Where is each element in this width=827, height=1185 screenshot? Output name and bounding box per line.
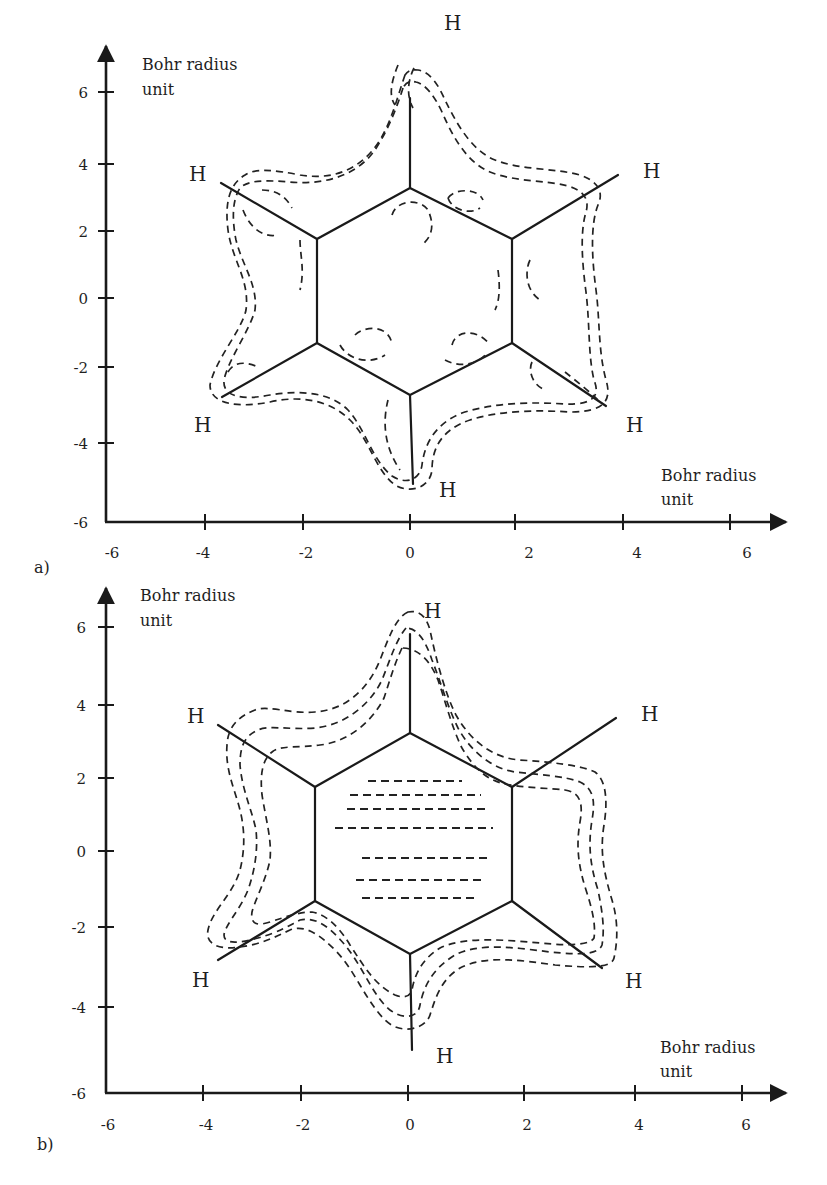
panel-b: 6 4 2 0 -2 -4 -6 Bohr radius unit -6 -4 …	[37, 586, 786, 1154]
atom-label-h: H	[625, 969, 642, 993]
y-axis	[98, 588, 114, 1093]
x-tick-label: 6	[742, 544, 752, 562]
x-tick-label: -2	[299, 544, 314, 562]
x-tick-label: -6	[101, 1116, 116, 1134]
x-axis	[105, 1085, 786, 1101]
y-tick-label: -6	[73, 514, 88, 532]
hydrogen-labels: H H H H H H	[189, 11, 660, 502]
x-tick-label: 4	[632, 544, 642, 562]
svg-text:Bohr radius: Bohr radius	[660, 1038, 756, 1057]
y-tick-label: 6	[76, 619, 86, 637]
x-tick-label: -4	[196, 544, 211, 562]
density-contours-outer	[208, 612, 617, 1029]
svg-text:unit: unit	[142, 80, 175, 99]
x-tick-label: 4	[634, 1116, 644, 1134]
density-contours-inner-lobes	[228, 190, 598, 470]
y-tick-label: 0	[76, 843, 86, 861]
benzene-skeleton	[218, 634, 616, 1050]
svg-text:unit: unit	[140, 611, 173, 630]
x-tick-labels: -6 -4 -2 0 2 4 6	[105, 544, 752, 562]
hydrogen-labels: H H H H H H	[187, 599, 658, 1068]
y-tick-label: -4	[71, 999, 86, 1017]
x-tick-labels: -6 -4 -2 0 2 4 6	[101, 1116, 751, 1134]
y-axis-title: Bohr radius unit	[142, 55, 238, 99]
y-tick-label: -4	[73, 435, 88, 453]
x-tick-label: -4	[199, 1116, 214, 1134]
y-tick-label: -2	[73, 359, 88, 377]
svg-text:Bohr radius: Bohr radius	[140, 586, 236, 605]
svg-text:unit: unit	[661, 490, 694, 509]
atom-label-h: H	[439, 478, 456, 502]
y-tick-label: 2	[78, 223, 88, 241]
y-tick-label: 2	[76, 770, 86, 788]
y-tick-labels: 6 4 2 0 -2 -4 -6	[71, 619, 86, 1103]
x-tick-label: -6	[105, 544, 120, 562]
panel-label-a: a)	[34, 558, 50, 577]
svg-text:unit: unit	[660, 1062, 693, 1081]
x-tick-label: 2	[524, 544, 534, 562]
atom-label-h: H	[641, 702, 658, 726]
y-axis	[98, 46, 114, 522]
x-tick-label: 2	[522, 1116, 532, 1134]
benzene-density-figure: 6 4 2 0 -2 -4 -6 Bohr radius unit -6 -4 …	[0, 0, 827, 1185]
benzene-skeleton	[221, 98, 618, 484]
atom-label-h: H	[189, 162, 206, 186]
y-tick-label: 0	[78, 290, 88, 308]
x-axis-title: Bohr radius unit	[661, 466, 757, 509]
atom-label-h: H	[194, 413, 211, 437]
svg-text:Bohr radius: Bohr radius	[142, 55, 238, 74]
atom-label-h: H	[436, 1044, 453, 1068]
atom-label-h: H	[192, 968, 209, 992]
y-axis-title: Bohr radius unit	[140, 586, 236, 630]
y-tick-label: -2	[71, 919, 86, 937]
svg-text:Bohr radius: Bohr radius	[661, 466, 757, 485]
x-tick-label: 0	[405, 1116, 415, 1134]
x-axis-title: Bohr radius unit	[660, 1038, 756, 1081]
x-tick-label: -2	[296, 1116, 311, 1134]
atom-label-h: H	[626, 413, 643, 437]
y-tick-label: -6	[71, 1085, 86, 1103]
x-tick-label: 6	[741, 1116, 751, 1134]
atom-label-h: H	[643, 159, 660, 183]
x-axis	[105, 514, 786, 530]
panel-label-b: b)	[37, 1135, 53, 1154]
atom-label-h: H	[424, 599, 441, 623]
y-tick-labels: 6 4 2 0 -2 -4 -6	[73, 84, 88, 532]
atom-label-h: H	[444, 11, 461, 35]
y-tick-label: 4	[78, 156, 88, 174]
pi-electron-density-lines	[335, 781, 493, 898]
x-tick-label: 0	[405, 544, 415, 562]
y-tick-label: 6	[78, 84, 88, 102]
y-tick-label: 4	[76, 697, 86, 715]
panel-a: 6 4 2 0 -2 -4 -6 Bohr radius unit -6 -4 …	[34, 11, 786, 577]
atom-label-h: H	[187, 704, 204, 728]
